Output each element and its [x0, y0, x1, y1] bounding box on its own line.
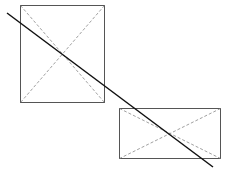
- intersecting-line: [7, 13, 213, 167]
- diagram-canvas: [0, 0, 225, 173]
- rect-2-group: [120, 109, 221, 159]
